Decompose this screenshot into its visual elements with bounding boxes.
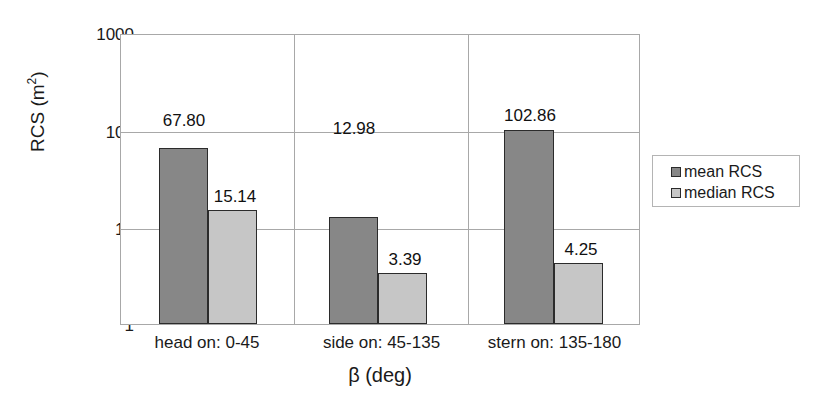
x-category-label-side-on: side on: 45-135 xyxy=(294,333,469,352)
bar-label-mean-stern-on: 102.86 xyxy=(484,107,576,124)
legend: mean RCS median RCS xyxy=(652,155,800,207)
legend-item-median-rcs: median RCS xyxy=(671,183,799,203)
x-category-label-stern-on: stern on: 135-180 xyxy=(469,333,640,352)
bar-median-head-on xyxy=(208,210,257,324)
bar-label-median-stern-on: 4.25 xyxy=(540,241,622,258)
y-axis-title-close: ) xyxy=(27,71,48,77)
category-separator-1 xyxy=(294,35,295,324)
bar-median-side-on xyxy=(378,273,427,324)
rcs-bar-chart: 1000 100 10 1 RCS (m2) 67.80 15.14 12.98… xyxy=(0,0,836,414)
bar-mean-head-on xyxy=(159,148,208,324)
bar-mean-side-on xyxy=(329,217,378,324)
x-category-label-head-on: head on: 0-45 xyxy=(120,333,294,352)
bar-label-median-head-on: 15.14 xyxy=(194,188,276,205)
bar-label-median-side-on: 3.39 xyxy=(364,251,446,268)
legend-item-mean-rcs: mean RCS xyxy=(671,162,799,182)
y-axis-title-exponent: 2 xyxy=(25,78,39,85)
bar-label-mean-side-on: 12.98 xyxy=(313,120,395,137)
legend-label-median: median RCS xyxy=(684,185,775,201)
x-axis-title: β (deg) xyxy=(120,364,640,387)
category-separator-2 xyxy=(468,35,469,324)
y-axis-title: RCS (m2) xyxy=(25,12,48,212)
legend-swatch-icon-mean xyxy=(671,167,681,177)
bar-median-stern-on xyxy=(554,263,603,324)
legend-label-mean: mean RCS xyxy=(684,164,762,180)
legend-swatch-icon-median xyxy=(671,188,681,198)
y-axis-title-base: RCS (m xyxy=(27,84,48,152)
bar-label-mean-head-on: 67.80 xyxy=(143,112,225,129)
bar-mean-stern-on xyxy=(504,130,554,324)
plot-area: 67.80 15.14 12.98 3.39 102.86 4.25 xyxy=(120,34,640,325)
